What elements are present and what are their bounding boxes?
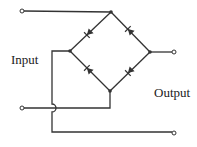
terminal-input-bottom [20,106,24,110]
node-right [148,50,152,54]
terminal-output-top [172,50,176,54]
terminal-input-top [20,9,24,13]
terminal-output-bottom [172,131,176,135]
bridge-rectifier-diagram [0,0,197,147]
node-left [68,49,72,53]
node-top [109,10,113,14]
node-bottom [108,89,112,93]
input-label: Input [11,53,38,66]
wire-input-top [24,11,111,12]
wire-input-bottom [24,91,110,108]
output-label: Output [154,86,190,99]
